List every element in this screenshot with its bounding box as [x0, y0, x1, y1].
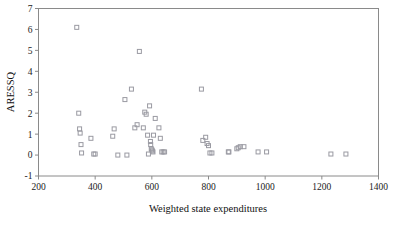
- x-tick-label: 800: [201, 182, 216, 192]
- y-tick-label: 4: [28, 67, 33, 77]
- y-axis-title: ARESSQ: [5, 71, 16, 112]
- y-tick-label: 7: [28, 4, 33, 14]
- x-tick-label: 400: [88, 182, 103, 192]
- x-tick-label: 200: [31, 182, 46, 192]
- y-tick-label: -1: [25, 171, 33, 181]
- y-tick-label: 5: [28, 46, 33, 56]
- x-tick-label: 1000: [256, 182, 275, 192]
- x-tick-label: 600: [145, 182, 160, 192]
- x-axis-title: Weighted state expenditures: [149, 203, 267, 214]
- y-tick-label: 0: [28, 150, 33, 160]
- y-tick-label: 6: [28, 25, 33, 35]
- x-tick-label: 1200: [312, 182, 331, 192]
- x-tick-label: 1400: [369, 182, 388, 192]
- y-tick-label: 2: [28, 109, 33, 119]
- y-tick-label: 1: [28, 130, 33, 140]
- y-tick-label: 3: [28, 88, 33, 98]
- figure-background: [0, 0, 406, 226]
- scatter-plot-figure: 200400600800100012001400 -101234567 Weig…: [0, 0, 406, 226]
- plot-canvas: 200400600800100012001400 -101234567 Weig…: [0, 0, 406, 226]
